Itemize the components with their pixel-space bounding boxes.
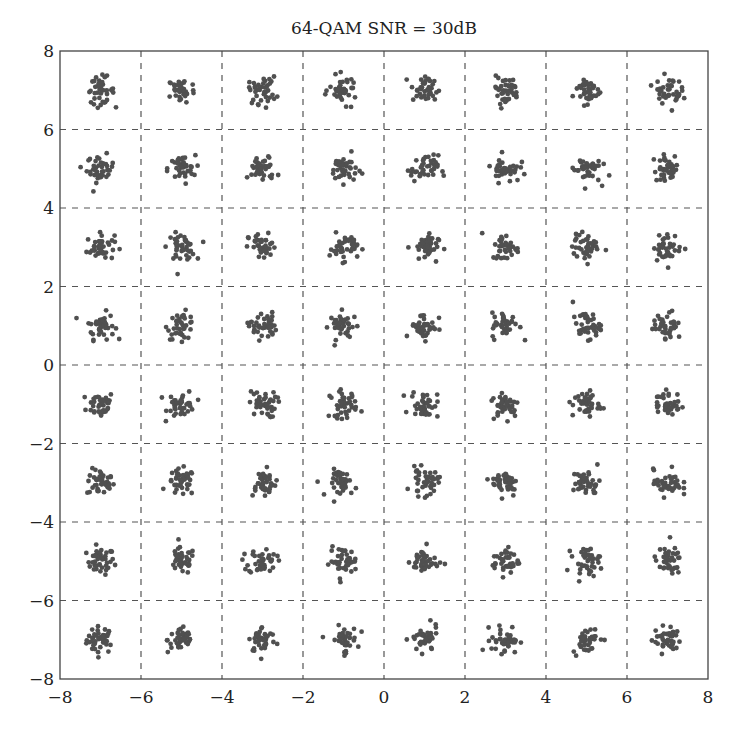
grid-lines bbox=[60, 51, 708, 679]
y-tick-label: −4 bbox=[29, 512, 54, 532]
scatter-points bbox=[74, 70, 688, 661]
y-tick-label: −2 bbox=[29, 434, 54, 454]
y-axis-ticks: −8−6−4−202468 bbox=[29, 41, 54, 689]
y-tick-label: 8 bbox=[43, 41, 54, 61]
x-tick-label: −6 bbox=[128, 687, 153, 707]
x-tick-label: 6 bbox=[622, 687, 633, 707]
y-tick-label: 4 bbox=[43, 198, 54, 218]
x-tick-label: 4 bbox=[541, 687, 552, 707]
y-tick-label: 0 bbox=[43, 355, 54, 375]
chart-title: 64-QAM SNR = 30dB bbox=[291, 18, 477, 38]
x-tick-label: −2 bbox=[290, 687, 315, 707]
x-tick-label: 8 bbox=[703, 687, 714, 707]
constellation-chart: 64-QAM SNR = 30dB −8−6−4−202468 −8−6−4−2… bbox=[0, 0, 744, 732]
y-tick-label: 2 bbox=[43, 277, 54, 297]
x-axis-ticks: −8−6−4−202468 bbox=[47, 687, 713, 707]
y-tick-label: −8 bbox=[29, 669, 54, 689]
x-tick-label: 2 bbox=[460, 687, 471, 707]
y-tick-label: −6 bbox=[29, 591, 54, 611]
x-tick-label: 0 bbox=[379, 687, 390, 707]
y-tick-label: 6 bbox=[43, 120, 54, 140]
x-tick-label: −4 bbox=[209, 687, 234, 707]
x-tick-label: −8 bbox=[47, 687, 72, 707]
